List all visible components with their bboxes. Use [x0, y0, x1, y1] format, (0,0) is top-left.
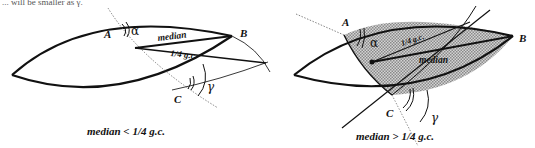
right-median-label: median: [419, 55, 448, 65]
left-lune-upper-arc: [12, 26, 232, 75]
right-gamma-arc-3: [420, 90, 428, 122]
right-dotted-gc-top: [296, 14, 344, 35]
left-caption: median < 1/4 g.c.: [87, 125, 165, 137]
left-quarter-gc-label: 1/4 g.c.: [170, 48, 198, 61]
left-gamma-arc-3: [198, 64, 206, 96]
right-alpha-label: α: [370, 36, 378, 50]
left-point-B: B: [239, 27, 247, 39]
right-midpoint-dot: [370, 60, 375, 65]
right-figure: A B C α γ 1/4 g.c. median median > 1/4 g…: [294, 6, 526, 146]
left-figure: A B C α γ median 1/4 g.c. median < 1/4 g…: [12, 8, 270, 137]
left-point-C: C: [174, 93, 182, 105]
lune-diagrams: ... will be smaller as γ. A B C α γ medi…: [0, 0, 535, 148]
left-thin-arc-C: [172, 62, 268, 90]
left-alpha-label: α: [131, 24, 139, 38]
left-gamma-arc-2: [191, 76, 194, 90]
left-median-label: median: [157, 30, 187, 43]
right-point-A: A: [341, 16, 349, 28]
right-point-B: B: [518, 32, 526, 44]
left-gamma-label: γ: [207, 80, 215, 94]
right-point-C: C: [386, 107, 394, 119]
cropped-header-text: ... will be smaller as γ.: [2, 0, 83, 7]
left-point-A: A: [103, 28, 111, 40]
right-caption: median > 1/4 g.c.: [356, 130, 434, 142]
left-thin-arc-B: [232, 36, 270, 72]
left-lune-lower-arc: [12, 36, 232, 87]
left-quarter-gc-line: [135, 48, 266, 63]
left-gamma-arc: [188, 78, 191, 89]
right-gamma-label: γ: [431, 111, 439, 125]
left-dotted-gc: [108, 8, 218, 108]
